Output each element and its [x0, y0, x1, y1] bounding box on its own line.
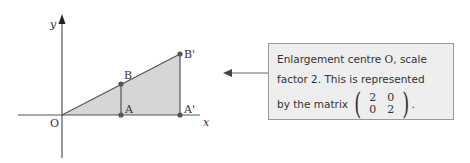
- origin-label: O: [50, 117, 59, 130]
- note-line-3: by the matrix ( 2 0 0 2 ) .: [277, 89, 445, 119]
- point-b: [118, 81, 123, 86]
- point-a: [118, 112, 123, 117]
- point-a-label: A: [124, 103, 134, 116]
- explanation-note: Enlargement centre O, scale factor 2. Th…: [268, 43, 454, 120]
- left-paren: (: [354, 89, 361, 119]
- trailing-period: .: [411, 94, 414, 114]
- arrow-left-icon: [223, 69, 232, 77]
- matrix-cell: 0: [366, 104, 380, 116]
- note-line-1: Enlargement centre O, scale: [277, 49, 445, 69]
- matrix-cell: 2: [384, 104, 398, 116]
- point-a-prime-label: A': [183, 103, 195, 116]
- point-a-prime: [177, 112, 182, 117]
- y-axis-arrow-icon: [59, 14, 66, 24]
- x-axis-label: x: [203, 116, 210, 129]
- y-axis-label: y: [49, 18, 57, 31]
- enlargement-matrix: ( 2 0 0 2 ): [352, 89, 411, 119]
- centre-o: O: [385, 53, 394, 65]
- point-b-prime: [177, 51, 182, 56]
- point-b-prime-label: B': [184, 48, 195, 61]
- point-b-label: B: [124, 69, 132, 82]
- right-paren: ): [402, 89, 409, 119]
